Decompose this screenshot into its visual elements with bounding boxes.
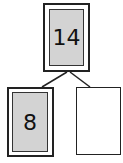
part-left-value-card: 8 bbox=[12, 92, 48, 152]
part-left-value: 8 bbox=[23, 110, 37, 135]
part-box-left: 8 bbox=[7, 87, 54, 157]
whole-box: 14 bbox=[43, 3, 90, 72]
whole-value-card: 14 bbox=[49, 9, 84, 66]
whole-value: 14 bbox=[53, 25, 81, 50]
part-box-right[interactable] bbox=[76, 87, 121, 155]
